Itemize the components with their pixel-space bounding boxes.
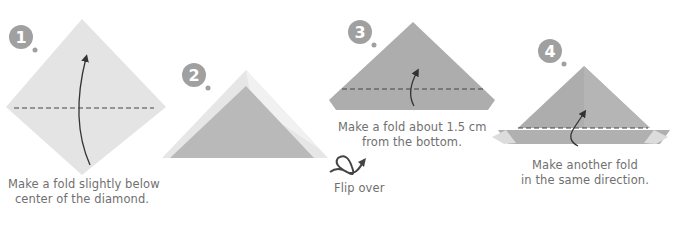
svg-text:3: 3 <box>354 23 365 42</box>
step-1-caption: Make a fold slightly below center of the… <box>8 177 156 207</box>
step-4-caption: Make another fold in the same direction. <box>510 158 660 188</box>
svg-text:2: 2 <box>188 66 199 85</box>
svg-text:1: 1 <box>15 28 26 47</box>
step-3-badge: 3 <box>347 19 379 49</box>
step-3-caption-line2: from the bottom. <box>338 135 486 150</box>
step-1-caption-line2: center of the diamond. <box>8 192 156 207</box>
step-4-badge: 4 <box>537 38 569 68</box>
flip-over-icon <box>330 156 366 174</box>
step-4-caption-line1: Make another fold <box>510 158 660 173</box>
step-1-caption-line1: Make a fold slightly below <box>8 177 156 192</box>
origami-instructions: 1 2 3 4 Make a fold slightly below cente… <box>0 0 674 228</box>
svg-text:4: 4 <box>544 42 555 61</box>
step-1-badge: 1 <box>8 24 40 54</box>
flip-over-label: Flip over <box>334 181 385 196</box>
step-3-caption-line1: Make a fold about 1.5 cm <box>338 120 486 135</box>
step-3-caption: Make a fold about 1.5 cm from the bottom… <box>338 120 486 150</box>
step-4-caption-line2: in the same direction. <box>510 173 660 188</box>
step-2-badge: 2 <box>181 62 213 92</box>
step-4-boat <box>492 66 670 146</box>
